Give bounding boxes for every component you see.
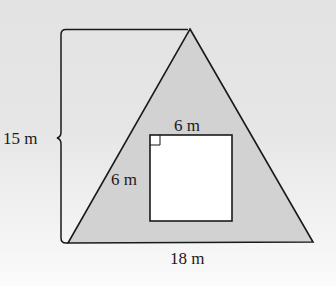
diagram-canvas	[0, 0, 336, 286]
triangle-height-label: 15 m	[3, 130, 37, 147]
triangle-base-label: 18 m	[170, 250, 204, 267]
square-cutout	[150, 135, 232, 221]
square-left-side-label: 6 m	[111, 171, 137, 188]
square-top-side-label: 6 m	[174, 117, 200, 134]
diagram-figure: 15 m 6 m 6 m 18 m	[0, 0, 336, 286]
